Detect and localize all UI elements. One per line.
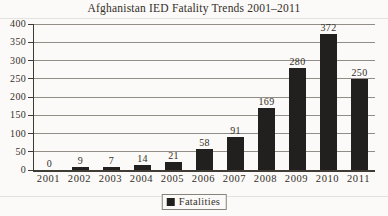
y-tick-400 (28, 24, 34, 25)
data-label-2008: 169 (243, 96, 291, 107)
y-tick-100 (28, 133, 34, 134)
y-tick-label-150: 150 (0, 109, 26, 120)
y-tick-label-200: 200 (0, 91, 26, 102)
legend-label: Fatalities (179, 196, 221, 207)
y-tick-label-100: 100 (0, 128, 26, 139)
chart-title: Afghanistan IED Fatality Trends 2001–201… (0, 2, 388, 14)
legend: Fatalities (162, 194, 227, 210)
y-tick-label-400: 400 (0, 18, 26, 29)
y-tick-300 (28, 60, 34, 61)
bar-2006 (196, 149, 213, 170)
bar-2005 (165, 162, 182, 170)
bar-2011 (351, 79, 368, 170)
data-label-2011: 250 (336, 67, 384, 78)
bar-2007 (227, 137, 244, 170)
y-tick-250 (28, 78, 34, 79)
ied-fatality-bar-chart: Afghanistan IED Fatality Trends 2001–201… (0, 0, 388, 216)
x-tick-label-2011: 2011 (339, 173, 378, 185)
chart-frame-rule-top (0, 18, 388, 19)
bar-2004 (134, 165, 151, 170)
data-label-2010: 372 (305, 22, 353, 33)
bar-2003 (103, 167, 120, 170)
data-label-2007: 91 (212, 125, 260, 136)
x-axis-labels: 2001200220032004200520062007200820092010… (33, 173, 374, 186)
data-label-2006: 58 (181, 137, 229, 148)
y-tick-label-50: 50 (0, 146, 26, 157)
y-tick-label-250: 250 (0, 73, 26, 84)
y-tick-350 (28, 42, 34, 43)
legend-marker-icon (167, 198, 175, 206)
y-tick-0 (28, 170, 34, 171)
y-tick-50 (28, 151, 34, 152)
y-tick-200 (28, 97, 34, 98)
y-tick-label-0: 0 (0, 164, 26, 175)
bar-2009 (289, 68, 306, 170)
bar-2002 (72, 167, 89, 170)
plot-area: 09714215891169280372250 (33, 24, 375, 172)
y-tick-150 (28, 115, 34, 116)
y-tick-label-300: 300 (0, 55, 26, 66)
y-axis-labels: 050100150200250300350400 (0, 24, 26, 170)
data-label-2009: 280 (274, 56, 322, 67)
bar-2008 (258, 108, 275, 170)
bar-2010 (320, 34, 337, 170)
y-tick-label-350: 350 (0, 36, 26, 47)
data-label-2005: 21 (150, 150, 198, 161)
